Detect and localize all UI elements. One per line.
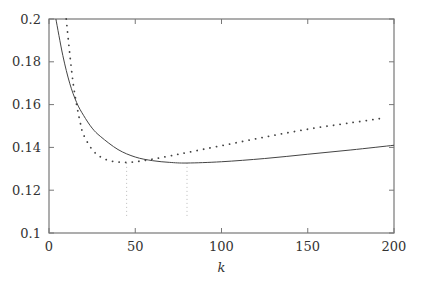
y-tick-label: 0.2 [20, 12, 41, 27]
y-tick-label: 0.1 [20, 226, 41, 241]
y-tick-label: 0.18 [12, 54, 41, 69]
plot-border [49, 19, 394, 233]
series-solid [56, 19, 394, 163]
axis-ticks [49, 19, 394, 233]
plot-frame [49, 19, 394, 233]
series-dotted [66, 19, 385, 162]
min-markers [127, 162, 187, 216]
x-tick-label: 150 [295, 239, 320, 254]
y-tick-label: 0.16 [12, 97, 41, 112]
series-lines [56, 19, 394, 163]
x-tick-label: 50 [127, 239, 144, 254]
y-tick-label: 0.12 [12, 183, 41, 198]
x-tick-labels: 050100150200 [45, 239, 407, 254]
x-tick-label: 200 [382, 239, 407, 254]
y-tick-label: 0.14 [12, 140, 41, 155]
x-axis-label: k [218, 260, 226, 275]
x-tick-label: 100 [209, 239, 234, 254]
x-tick-label: 0 [45, 239, 53, 254]
y-tick-labels: 0.10.120.140.160.180.2 [12, 12, 41, 241]
line-chart: 050100150200 0.10.120.140.160.180.2 k [0, 0, 423, 281]
